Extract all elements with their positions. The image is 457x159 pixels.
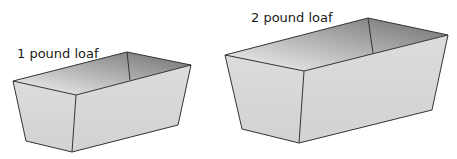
pan-2-label: 2 pound loaf: [251, 10, 333, 25]
pan-2-pound: 2 pound loaf: [225, 10, 448, 143]
pan-1-pound: 1 pound loaf: [13, 46, 191, 152]
pan-1-label: 1 pound loaf: [17, 46, 99, 61]
loaf-pans-diagram: 1 pound loaf 2 pound loaf: [0, 0, 457, 159]
